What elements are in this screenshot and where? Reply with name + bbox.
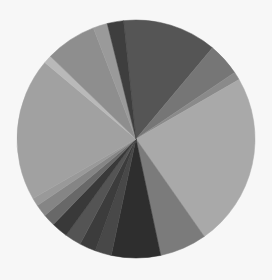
pie-slices xyxy=(17,20,255,258)
pie-chart xyxy=(0,0,272,280)
